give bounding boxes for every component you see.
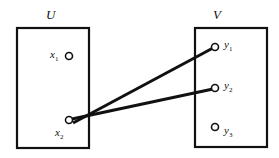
element-x2-label: x2	[55, 126, 63, 141]
element-x2-dot	[66, 117, 73, 124]
element-y2-dot	[212, 85, 219, 92]
element-y1-label: y1	[224, 38, 232, 53]
arrow-x2-y1	[73, 48, 213, 123]
set-v-label: V	[213, 7, 221, 23]
element-y3-label: y3	[224, 124, 232, 139]
element-x1-dot	[66, 53, 73, 60]
arrow-x2-y2	[72, 89, 213, 119]
element-y2-label: y2	[224, 79, 232, 94]
set-u-label: U	[46, 7, 55, 23]
element-y3-dot	[212, 124, 219, 131]
set-u-box	[17, 28, 89, 148]
element-x1-label: x1	[50, 48, 58, 63]
element-y1-dot	[212, 44, 219, 51]
relation-diagram	[0, 0, 279, 158]
